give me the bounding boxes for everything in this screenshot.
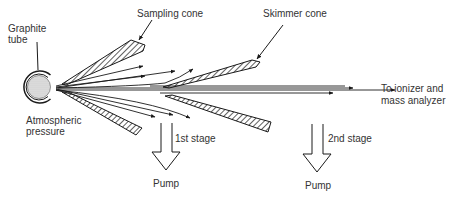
graphite-tube-label-2: tube <box>8 34 28 45</box>
central-ion-beam <box>56 86 395 93</box>
skimmer-cone-lower <box>165 95 271 132</box>
skimmer-cone-label: Skimmer cone <box>263 8 327 19</box>
sampling-cone-label: Sampling cone <box>137 8 204 19</box>
graphite-tube-leader <box>37 42 38 70</box>
sampling-cone-upper <box>62 40 145 85</box>
expanding-jet <box>56 66 193 118</box>
pump1-label: Pump <box>153 178 180 189</box>
icp-interface-diagram: Graphite tube Sampling cone Skimmer cone… <box>0 0 466 202</box>
stage2-label: 2nd stage <box>328 133 372 144</box>
graphite-tube-label: Graphite <box>8 23 47 34</box>
stage1-label: 1st stage <box>175 133 216 144</box>
destination-label-2: mass analyzer <box>381 95 446 106</box>
atmospheric-pressure-label: Atmospheric <box>26 115 82 126</box>
atmospheric-pressure-label-2: pressure <box>26 126 65 137</box>
graphite-tube <box>24 71 51 103</box>
sampling-cone-lower <box>62 92 142 135</box>
skimmer-cone-leader <box>257 25 283 59</box>
pump-arrow-stage1 <box>152 123 180 170</box>
skimmer-cone-upper <box>163 60 260 88</box>
pump2-label: Pump <box>305 180 332 191</box>
destination-label: To ionizer and <box>381 83 443 94</box>
sampling-cone-leader <box>139 20 152 40</box>
pump-arrow-stage2 <box>303 124 331 172</box>
